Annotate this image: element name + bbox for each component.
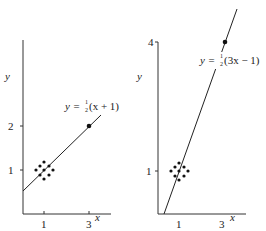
left-equation-label: y = 1 2 (x + 1) <box>64 99 119 113</box>
figure: 1 3 x 1 2 y y = 1 2 (x + 1) 1 3 x 1 4 y <box>0 0 266 231</box>
right-plot: 1 3 x 1 4 y y = 1 2 (3x − 1) <box>136 9 266 230</box>
right-x-tick-label-1: 1 <box>176 218 182 230</box>
right-y-tick-label-1: 1 <box>146 165 152 177</box>
svg-text:y =: y = <box>199 54 215 66</box>
left-plot: 1 3 x 1 2 y y = 1 2 (x + 1) <box>4 40 119 230</box>
left-y-tick-label-2: 2 <box>8 120 14 132</box>
left-x-tick-label-1: 1 <box>41 218 47 230</box>
svg-text:1: 1 <box>220 53 223 59</box>
svg-text:2: 2 <box>85 107 88 113</box>
left-y-tick-label-1: 1 <box>8 164 14 176</box>
left-highlight-point <box>87 124 92 129</box>
left-x-axis-label: x <box>94 211 100 223</box>
right-equation-label: y = 1 2 (3x − 1) <box>199 53 260 67</box>
left-x-tick-label-3: 3 <box>86 218 92 230</box>
svg-text:y =: y = <box>64 100 80 112</box>
right-point-cluster <box>169 161 189 181</box>
svg-text:1: 1 <box>85 99 88 105</box>
svg-text:(3x − 1): (3x − 1) <box>224 54 260 67</box>
svg-text:(x + 1): (x + 1) <box>89 100 119 113</box>
right-y-tick-label-4: 4 <box>148 36 154 48</box>
left-y-axis-label: y <box>4 70 10 82</box>
right-x-tick-label-3: 3 <box>219 218 225 230</box>
right-highlight-point <box>223 40 228 45</box>
svg-text:2: 2 <box>220 61 223 67</box>
right-y-axis-label: y <box>136 70 142 82</box>
right-x-axis-label: x <box>229 211 235 223</box>
right-regression-line-lower <box>164 9 237 214</box>
